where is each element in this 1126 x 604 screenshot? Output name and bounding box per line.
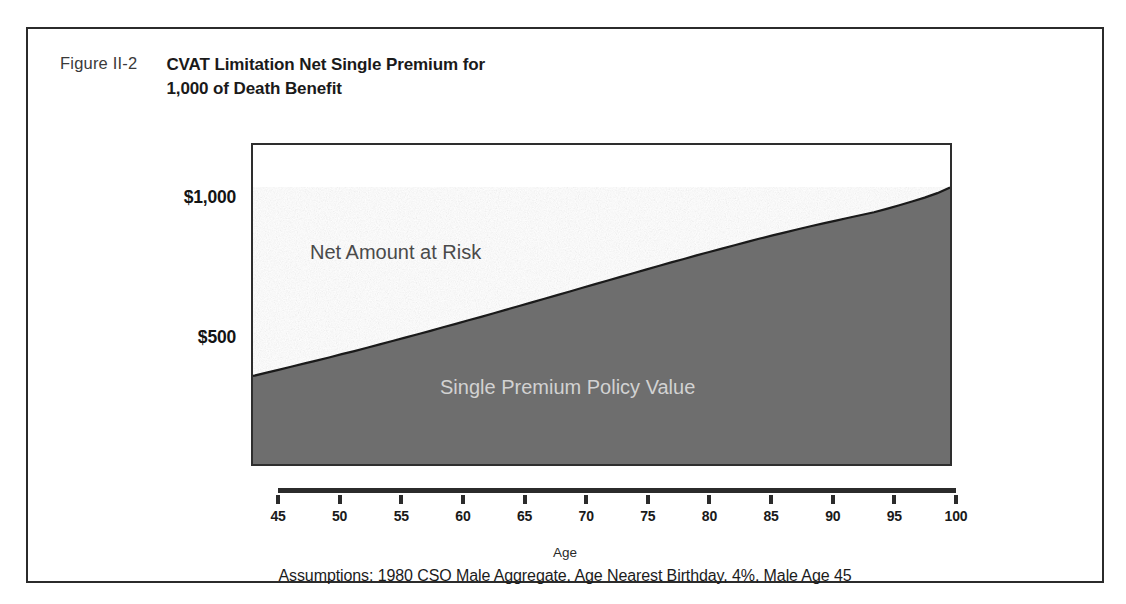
x-tick-label: 70 [579, 508, 594, 524]
x-tick-mark [338, 495, 342, 504]
y-axis-labels: $1,000 $500 [128, 143, 236, 473]
x-tick-mark [399, 495, 403, 504]
assumptions-note: Assumptions: 1980 CSO Male Aggregate, Ag… [28, 567, 1102, 585]
figure-frame: Figure II-2 CVAT Limitation Net Single P… [26, 27, 1104, 583]
x-tick-label: 90 [825, 508, 840, 524]
x-tick-label: 65 [517, 508, 532, 524]
x-tick-label: 50 [332, 508, 347, 524]
x-tick-label: 60 [455, 508, 470, 524]
figure-title-line-1: CVAT Limitation Net Single Premium for [166, 53, 485, 77]
x-tick-label: 75 [640, 508, 655, 524]
x-axis-line [278, 488, 956, 493]
y-tick-label-500: $500 [198, 327, 236, 348]
x-tick-label: 80 [702, 508, 717, 524]
x-tick-mark [646, 495, 650, 504]
annotation-net-amount-at-risk: Net Amount at Risk [310, 241, 481, 264]
x-tick-mark [523, 495, 527, 504]
x-tick-mark [769, 495, 773, 504]
area-chart-svg [253, 145, 950, 464]
x-tick-mark [276, 495, 280, 504]
x-axis-title: Age [28, 545, 1102, 560]
x-tick-mark [461, 495, 465, 504]
x-tick-mark [707, 495, 711, 504]
x-axis: 4550556065707580859095100 [254, 488, 954, 546]
x-tick-mark [584, 495, 588, 504]
x-tick-label: 100 [945, 508, 968, 524]
x-tick-label: 85 [763, 508, 778, 524]
x-tick-label: 95 [887, 508, 902, 524]
series-area-single-premium-policy-value [253, 188, 950, 464]
figure-header: Figure II-2 CVAT Limitation Net Single P… [60, 53, 485, 101]
annotation-single-premium-policy-value: Single Premium Policy Value [440, 376, 695, 399]
figure-number-label: Figure II-2 [60, 53, 137, 73]
plot-area: Net Amount at Risk Single Premium Policy… [251, 143, 952, 466]
y-tick-label-1000: $1,000 [184, 187, 236, 208]
x-tick-label: 45 [270, 508, 285, 524]
figure-title-line-2: 1,000 of Death Benefit [166, 77, 485, 101]
x-tick-mark [892, 495, 896, 504]
x-tick-mark [831, 495, 835, 504]
figure-title: CVAT Limitation Net Single Premium for 1… [166, 53, 485, 101]
x-tick-mark [954, 495, 958, 504]
x-tick-label: 55 [394, 508, 409, 524]
